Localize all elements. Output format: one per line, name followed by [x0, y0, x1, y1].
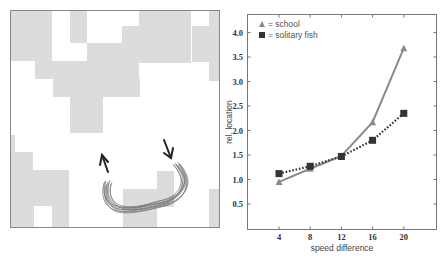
legend: = school = solitary fish	[259, 19, 318, 40]
x-axis-label: speed difference	[311, 243, 374, 253]
plot-frame	[248, 15, 437, 230]
x-tick-label: 16	[368, 232, 377, 242]
y-tick-label: 4.0	[232, 28, 243, 38]
solitary-fish-marker	[338, 153, 345, 160]
solitary-fish-marker	[400, 110, 407, 117]
solitary-fish-marker	[307, 163, 314, 170]
y-tick-label: 3.0	[232, 77, 243, 87]
line-chart: 0.51.01.52.02.53.03.54.0 48121620 rel. l…	[225, 0, 447, 265]
arena-grid	[0, 0, 225, 265]
line-chart-panel: 0.51.01.52.02.53.03.54.0 48121620 rel. l…	[225, 0, 447, 265]
x-tick-label: 20	[400, 232, 409, 242]
data-series	[276, 45, 408, 185]
triangle-marker-icon	[259, 21, 265, 27]
school-line	[279, 48, 404, 182]
y-axis-label: rel. location	[225, 100, 234, 144]
school-marker	[400, 45, 407, 52]
arrow-right-icon	[164, 140, 173, 158]
arena-trajectory-panel	[0, 0, 225, 265]
arrow-left-icon	[100, 155, 108, 172]
solitary-fish-line	[279, 113, 404, 173]
legend-school: = school	[268, 19, 300, 29]
y-tick-label: 1.0	[232, 175, 243, 185]
y-tick-label: 3.5	[232, 52, 243, 62]
square-marker-icon	[259, 32, 265, 38]
y-tick-label: 0.5	[232, 199, 243, 209]
y-tick-label: 1.5	[232, 150, 243, 160]
grid-cells	[11, 11, 219, 227]
x-tick-label: 8	[308, 232, 312, 242]
school-marker	[369, 119, 376, 126]
solitary-fish-marker	[276, 170, 283, 177]
y-axis-ticks: 0.51.01.52.02.53.03.54.0	[232, 28, 436, 210]
legend-solitary-fish: = solitary fish	[268, 30, 318, 40]
x-tick-label: 4	[277, 232, 282, 242]
solitary-fish-marker	[369, 137, 376, 144]
x-axis-ticks: 48121620	[277, 15, 408, 243]
x-tick-label: 12	[337, 232, 346, 242]
